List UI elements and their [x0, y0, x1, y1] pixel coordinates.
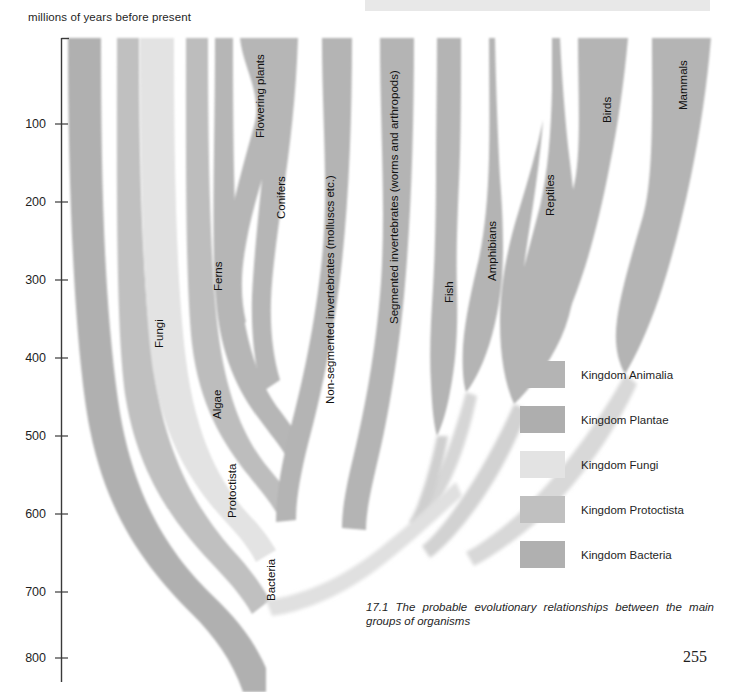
axis-tick-label-400: 400: [25, 351, 46, 365]
legend-swatch-animalia: [520, 361, 565, 388]
chart-legend: Kingdom Animalia Kingdom Plantae Kingdom…: [520, 361, 730, 586]
branch-label-mammals: Mammals: [677, 60, 689, 110]
axis-tick-label-800: 800: [25, 651, 46, 665]
axis-tick-label-300: 300: [25, 273, 46, 287]
legend-swatch-plantae: [520, 406, 565, 433]
axis-tick-label-200: 200: [25, 195, 46, 209]
branch-label-birds: Birds: [601, 97, 613, 123]
branch-label-segmented-invertebrates: Segmented invertebrates (worms and arthr…: [388, 70, 400, 324]
branch-label-fish: Fish: [443, 281, 455, 303]
legend-item-plantae: Kingdom Plantae: [520, 406, 730, 433]
axis-tick-label-600: 600: [25, 507, 46, 521]
legend-label-plantae: Kingdom Plantae: [581, 414, 669, 426]
legend-label-animalia: Kingdom Animalia: [581, 369, 673, 381]
branch-label-protoctista: Protoctista: [226, 463, 238, 518]
page-number: 255: [683, 648, 707, 666]
branch-label-flowering-plants: Flowering plants: [254, 54, 266, 138]
branch-shape-segmented-invertebrates: [342, 38, 414, 530]
branch-label-bacteria: Bacteria: [265, 558, 277, 601]
branch-label-conifers: Conifers: [275, 176, 287, 219]
figure-caption: 17.1 The probable evolutionary relations…: [366, 600, 714, 629]
legend-label-protoctista: Kingdom Protoctista: [581, 504, 684, 516]
legend-label-fungi: Kingdom Fungi: [581, 459, 658, 471]
branch-shape-mammals: [616, 38, 711, 374]
branch-label-amphibians: Amphibians: [486, 221, 498, 281]
branch-label-reptiles: Reptiles: [544, 174, 556, 216]
branch-label-ferns: Ferns: [212, 261, 224, 291]
figure-page: millions of years before present: [0, 0, 737, 692]
legend-swatch-fungi: [520, 451, 565, 478]
legend-item-fungi: Kingdom Fungi: [520, 451, 730, 478]
evolutionary-tree-chart: 100 200 300 400 500 600 700 800 Bacteria…: [0, 0, 737, 692]
branch-shape-fish: [430, 38, 461, 436]
axis-tick-label-700: 700: [25, 585, 46, 599]
legend-swatch-protoctista: [520, 496, 565, 523]
branch-label-algae: Algae: [211, 390, 223, 419]
legend-item-bacteria: Kingdom Bacteria: [520, 541, 730, 568]
branch-label-non-segmented-invertebrates: Non-segmented invertebrates (molluscs et…: [324, 175, 336, 404]
axis-tick-label-500: 500: [25, 429, 46, 443]
legend-swatch-bacteria: [520, 541, 565, 568]
axis-tick-label-100: 100: [25, 117, 46, 131]
branch-shape-amphibians: [463, 38, 503, 392]
legend-item-animalia: Kingdom Animalia: [520, 361, 730, 388]
y-axis: 100 200 300 400 500 600 700 800: [25, 38, 69, 682]
branch-label-fungi: Fungi: [153, 319, 165, 348]
legend-label-bacteria: Kingdom Bacteria: [581, 549, 672, 561]
legend-item-protoctista: Kingdom Protoctista: [520, 496, 730, 523]
